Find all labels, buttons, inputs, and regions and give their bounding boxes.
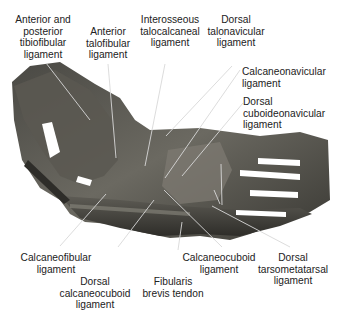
label-anterior-talofibular-ligament: Anterior talofibular ligament [80, 26, 136, 61]
label-anterior-posterior-tibiofibular-ligament: Anterior and posterior tibiofibular liga… [4, 14, 82, 60]
label-dorsal-tarsometatarsal-ligament: Dorsal tarsometatarsal ligament [252, 252, 334, 287]
label-dorsal-talonavicular-ligament: Dorsal talonavicular ligament [200, 14, 272, 49]
label-fibularis-brevis-tendon: Fibularis brevis tendon [138, 276, 208, 299]
label-dorsal-cuboideonavicular-ligament: Dorsal cuboideonavicular ligament [243, 96, 325, 131]
label-calcaneofibular-ligament: Calcaneofibular ligament [14, 252, 98, 275]
label-dorsal-calcaneocuboid-ligament: Dorsal calcaneocuboid ligament [54, 276, 136, 311]
label-calcaneocuboid-ligament: Calcaneocuboid ligament [180, 252, 258, 275]
label-interosseous-talocalcaneal-ligament: Interosseous talocalcaneal ligament [134, 14, 206, 49]
anatomy-figure: Anterior and posterior tibiofibular liga… [0, 0, 338, 320]
label-calcaneonavicular-ligament: Calcaneonavicular ligament [242, 66, 326, 89]
